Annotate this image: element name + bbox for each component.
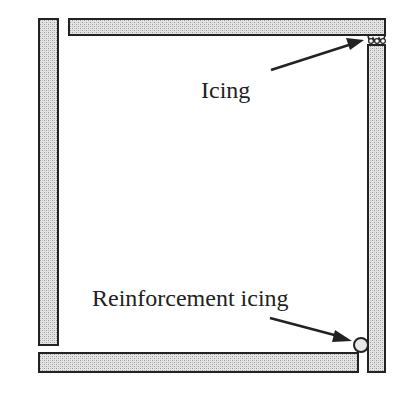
bottom-wall-panel	[39, 353, 358, 372]
top-wall-panel	[69, 19, 385, 35]
icing-label: Icing	[201, 77, 250, 103]
gingerbread-corner-diagram: Icing Reinforcement icing	[0, 0, 404, 398]
right-wall-panel	[368, 45, 385, 372]
reinforcement-icing-label: Reinforcement icing	[92, 285, 289, 311]
icing-arrow	[271, 38, 364, 70]
icing-joint	[368, 36, 385, 43]
left-wall-panel	[39, 19, 58, 345]
reinforcement-arrowhead-icon	[332, 330, 352, 342]
reinforcement-icing-bead	[354, 338, 368, 352]
icing-arrowhead-icon	[346, 38, 364, 50]
reinforcement-icing-arrow	[270, 318, 352, 342]
